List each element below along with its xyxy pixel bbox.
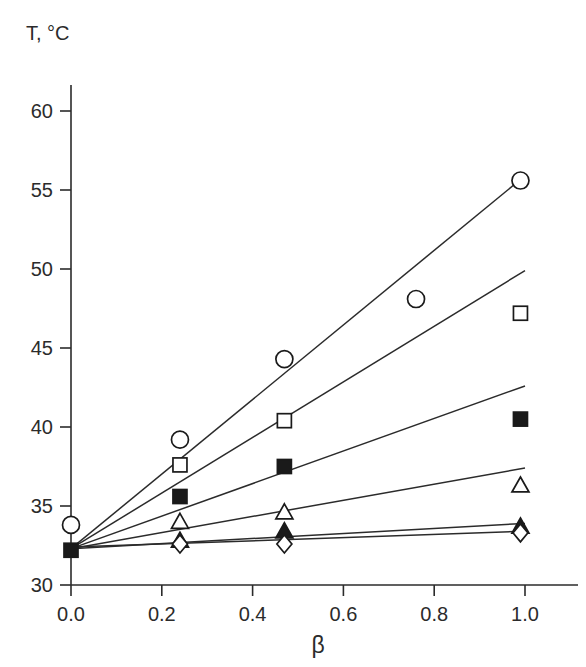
marker-open-circle <box>63 516 80 533</box>
marker-filled-square <box>277 460 291 474</box>
marker-filled-square <box>513 412 527 426</box>
y-axis-tick-label: 50 <box>31 258 53 280</box>
y-axis-tick-label: 30 <box>31 574 53 596</box>
marker-open-square <box>513 306 527 320</box>
y-axis-tick-label: 55 <box>31 179 53 201</box>
trend-line-series-6 <box>71 531 525 547</box>
scatter-plot: 303540455055600.00.20.40.60.81.0 T, °C β <box>0 0 586 667</box>
x-axis-tick-label: 0.0 <box>57 603 85 625</box>
marker-open-circle <box>408 291 425 308</box>
marker-open-triangle <box>171 513 188 528</box>
y-axis-tick-label: 40 <box>31 416 53 438</box>
marker-open-circle <box>171 431 188 448</box>
marker-open-triangle <box>512 477 529 492</box>
y-axis-tick-label: 45 <box>31 337 53 359</box>
marker-filled-square <box>64 543 78 557</box>
marker-open-square <box>277 414 291 428</box>
axis-layer: 303540455055600.00.20.40.60.81.0 <box>31 85 578 625</box>
trend-line-series-1 <box>71 176 525 549</box>
y-axis-tick-label: 35 <box>31 495 53 517</box>
trend-lines-layer <box>71 176 525 549</box>
x-axis-tick-label: 0.2 <box>148 603 176 625</box>
x-axis-title: β <box>311 632 324 658</box>
marker-filled-square <box>173 490 187 504</box>
marker-open-circle <box>276 351 293 368</box>
marker-open-square <box>173 458 187 472</box>
marker-open-circle <box>512 172 529 189</box>
x-axis-tick-label: 0.6 <box>329 603 357 625</box>
y-axis-title: T, °C <box>26 22 70 44</box>
y-axis-tick-label: 60 <box>31 100 53 122</box>
chart-figure: 303540455055600.00.20.40.60.81.0 T, °C β <box>0 0 586 667</box>
x-axis-tick-label: 0.8 <box>420 603 448 625</box>
x-axis-tick-label: 0.4 <box>239 603 267 625</box>
x-axis-tick-label: 1.0 <box>511 603 539 625</box>
marker-open-diamond <box>172 535 187 553</box>
